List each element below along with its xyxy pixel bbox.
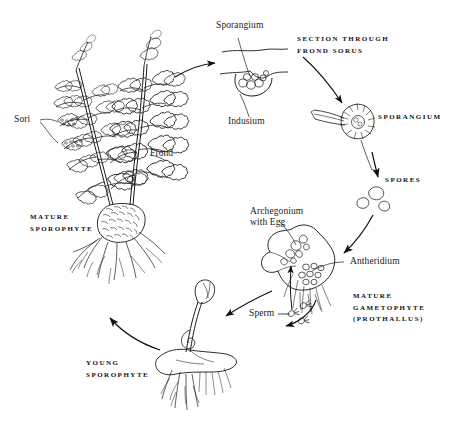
right-frond: [107, 29, 190, 205]
archegonia: [281, 235, 310, 265]
mature-gametophyte-drawing: [261, 221, 344, 314]
caption-spores: SPORES: [385, 175, 421, 187]
caption-mature-gametophyte: MATURE GAMETOPHYTE (PROTHALLUS): [353, 291, 425, 326]
arrow-sporangium-to-spores: [372, 152, 378, 177]
caption-sporangium: SPORANGIUM: [378, 112, 442, 124]
label-antheridium: Antheridium: [350, 256, 400, 267]
young-sporophyte-drawing: [156, 280, 237, 410]
label-sperm: Sperm: [249, 308, 274, 319]
label-frond: Frond: [150, 148, 173, 159]
frond-sorus-section-drawing: [220, 38, 288, 117]
caption-section-through-frond-sorus: SECTION THROUGH FROND SORUS: [297, 34, 389, 57]
arrow-young-to-mature-sporophyte: [110, 318, 160, 350]
arrow-sorus-to-sporangium: [303, 57, 342, 103]
label-sporangium-top: Sporangium: [216, 20, 263, 31]
arrow-spores-to-gametophyte: [344, 215, 373, 253]
caption-mature-sporophyte: MATURE SPOROPHYTE: [30, 212, 93, 235]
label-indusium: Indusium: [228, 116, 265, 127]
sporangium-drawing: [311, 103, 375, 170]
label-archegonium-with-egg: Archegonium with Egg: [250, 206, 303, 228]
label-sori: Sori: [14, 114, 30, 125]
spores-drawing: [357, 187, 390, 211]
sori-leader: [40, 119, 58, 143]
left-frond: [53, 33, 147, 205]
fern-life-cycle-figure: Sori Frond MATURE SPOROPHYTE Sporangium …: [0, 0, 452, 430]
arrow-sporophyte-to-sorus: [175, 63, 215, 77]
caption-young-sporophyte: YOUNG SPOROPHYTE: [86, 358, 149, 381]
